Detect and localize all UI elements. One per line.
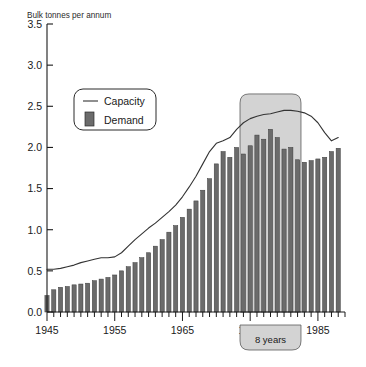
demand-bar — [86, 283, 90, 312]
demand-bar — [187, 209, 191, 312]
demand-bar — [58, 287, 62, 312]
y-axis-tick-labels: 0.00.51.01.52.02.53.03.5 — [27, 18, 42, 318]
demand-bar — [275, 138, 279, 312]
y-tick-label: 0.5 — [27, 265, 42, 277]
demand-bar — [79, 284, 83, 312]
demand-bar — [295, 160, 299, 312]
chart-legend: Capacity Demand — [74, 89, 156, 130]
demand-bar — [336, 148, 340, 312]
capacity-demand-chart: 0.00.51.01.52.02.53.03.5 194519551965197… — [0, 0, 366, 367]
y-tick-label: 1.5 — [27, 182, 42, 194]
demand-bar — [289, 147, 293, 312]
y-tick-label: 2.5 — [27, 100, 42, 112]
demand-bar — [323, 157, 327, 312]
demand-bar — [92, 281, 96, 312]
demand-bar — [106, 277, 110, 312]
demand-bar — [146, 253, 150, 312]
demand-bar — [133, 263, 137, 312]
chart-axis-title: Bulk tonnes per annum — [27, 11, 111, 20]
y-tick-label: 2.0 — [27, 141, 42, 153]
demand-bar — [248, 146, 252, 312]
y-tick-label: 0.0 — [27, 306, 42, 318]
demand-bar — [309, 161, 313, 312]
y-tick-label: 1.0 — [27, 224, 42, 236]
y-tick-label: 3.0 — [27, 59, 42, 71]
demand-bar — [65, 286, 69, 312]
demand-bar — [167, 232, 171, 312]
demand-bar — [160, 240, 164, 312]
demand-bar — [174, 226, 178, 312]
demand-bar — [235, 147, 239, 312]
demand-bar — [302, 162, 306, 312]
demand-bar — [255, 135, 259, 312]
x-tick-label: 1955 — [103, 324, 127, 336]
x-axis-ticks — [47, 312, 345, 321]
demand-bar — [113, 275, 117, 312]
demand-bar — [99, 279, 103, 312]
demand-bar — [228, 157, 232, 312]
demand-bar — [214, 164, 218, 312]
demand-bar — [72, 285, 76, 312]
legend-demand-label: Demand — [104, 114, 144, 126]
demand-bar — [180, 217, 184, 312]
x-tick-label: 1965 — [171, 324, 195, 336]
x-tick-label: 1985 — [306, 324, 330, 336]
x-tick-label: 1945 — [35, 324, 59, 336]
demand-bar — [207, 179, 211, 312]
demand-bar — [329, 152, 333, 312]
demand-bar — [201, 190, 205, 312]
demand-bar — [241, 154, 245, 312]
demand-bar — [119, 271, 123, 312]
demand-bar — [153, 246, 157, 312]
legend-capacity-label: Capacity — [104, 95, 146, 107]
demand-bar — [262, 139, 266, 312]
duration-callout-label: 8 years — [255, 334, 286, 345]
demand-bar — [140, 258, 144, 312]
demand-bar — [194, 201, 198, 312]
demand-bar — [282, 149, 286, 312]
demand-bar — [52, 290, 56, 312]
demand-bar — [221, 152, 225, 312]
demand-bar — [126, 267, 130, 312]
chart-container: 0.00.51.01.52.02.53.03.5 194519551965197… — [0, 0, 366, 367]
demand-bar — [316, 159, 320, 312]
demand-bar — [268, 129, 272, 312]
legend-demand-bar-swatch — [85, 112, 94, 126]
duration-callout: 8 years — [240, 325, 301, 350]
